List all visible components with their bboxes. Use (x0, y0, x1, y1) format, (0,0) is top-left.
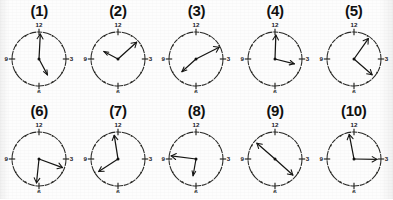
clock-tick-minor (376, 45, 378, 47)
clock-numeral-9: 9 (5, 155, 9, 162)
clock-tick-minor (52, 35, 54, 37)
clock-tick-minor (94, 72, 96, 74)
clock-tick-minor (209, 181, 211, 183)
clock-minute-hand (257, 143, 275, 159)
clock-tick-minor (130, 181, 132, 183)
clock-numeral-9: 9 (162, 155, 166, 162)
clock-tick-minor (172, 144, 174, 146)
clock-tick-minor (94, 171, 96, 173)
clock-numeral-9: 9 (5, 55, 9, 62)
clock-10-label: (10) (341, 102, 366, 120)
clock-numeral-3: 3 (227, 155, 231, 162)
clock-center-hub (38, 58, 41, 61)
clock-numeral-9: 9 (319, 55, 323, 62)
clock-8-label: (8) (188, 102, 205, 120)
clock-numeral-12: 12 (114, 21, 121, 28)
clock-tick-minor (297, 144, 299, 146)
clock-2: (2)12369 (79, 0, 158, 100)
clock-numeral-3: 3 (149, 155, 153, 162)
clock-face: 12369 (82, 119, 154, 193)
clock-tick-minor (130, 134, 132, 136)
clock-tick-minor (339, 181, 341, 183)
clock-numeral-3: 3 (385, 55, 389, 62)
clock-numeral-6: 6 (116, 188, 120, 193)
clock-tick-minor (25, 35, 27, 37)
clock-numeral-6: 6 (273, 88, 277, 93)
clock-tick-minor (261, 134, 263, 136)
clock-5-label: (5) (345, 2, 362, 20)
clock-grid: (1)12369(2)12369(3)12369(4)12369(5)12369… (0, 0, 393, 199)
clock-7-face: 12369 (82, 119, 154, 193)
clock-tick-minor (182, 35, 184, 37)
clock-tick-minor (288, 181, 290, 183)
clock-center-hub (38, 157, 41, 160)
clock-numeral-6: 6 (273, 188, 277, 193)
clock-tick-minor (339, 81, 341, 83)
clock-minute-hand (275, 35, 276, 59)
clock-4-face: 12369 (239, 19, 311, 93)
clock-5: (5)12369 (314, 0, 393, 100)
clock-tick-minor (62, 171, 64, 173)
clock-numeral-3: 3 (70, 55, 74, 62)
clock-tick-minor (219, 45, 221, 47)
clock-tick-minor (261, 35, 263, 37)
clock-3-label: (3) (188, 2, 205, 20)
clock-numeral-6: 6 (38, 188, 42, 193)
clock-face: 12369 (160, 19, 232, 93)
clock-10-face: 12369 (318, 119, 390, 193)
clock-tick-minor (62, 45, 64, 47)
clock-hour-hand (182, 59, 196, 72)
clock-tick-minor (104, 35, 106, 37)
clock-6: (6)12369 (0, 100, 79, 200)
clock-3-face: 12369 (160, 19, 232, 93)
clock-tick-minor (52, 81, 54, 83)
clock-center-hub (195, 157, 198, 160)
clock-tick-minor (52, 134, 54, 136)
clock-9: (9)12369 (236, 100, 315, 200)
clock-tick-minor (209, 134, 211, 136)
clock-numeral-12: 12 (114, 121, 121, 128)
clock-hour-hand (275, 159, 293, 175)
clock-face: 12369 (3, 119, 75, 193)
clock-tick-minor (62, 72, 64, 74)
clock-tick-minor (25, 181, 27, 183)
clock-tick-minor (104, 81, 106, 83)
clock-tick-minor (330, 45, 332, 47)
clock-tick-minor (140, 144, 142, 146)
clock-face: 12369 (82, 19, 154, 93)
clock-tick-minor (376, 144, 378, 146)
clock-tick-minor (182, 134, 184, 136)
clock-2-label: (2) (109, 2, 126, 20)
clock-1: (1)12369 (0, 0, 79, 100)
clock-face: 12369 (239, 19, 311, 93)
clock-center-hub (352, 157, 355, 160)
clock-tick-minor (366, 35, 368, 37)
clock-tick-minor (130, 81, 132, 83)
clock-tick-minor (140, 45, 142, 47)
clock-tick-minor (251, 45, 253, 47)
clock-tick-minor (15, 171, 17, 173)
clock-center-hub (274, 58, 277, 61)
clock-tick-minor (25, 81, 27, 83)
clock-7-label: (7) (109, 102, 126, 120)
clock-numeral-6: 6 (116, 88, 120, 93)
clock-1-face: 12369 (3, 19, 75, 93)
clock-numeral-6: 6 (195, 188, 199, 193)
clock-tick-minor (288, 35, 290, 37)
clock-tick-minor (104, 134, 106, 136)
clock-3: (3)12369 (157, 0, 236, 100)
clock-minute-hand (354, 39, 368, 59)
clock-numeral-9: 9 (83, 155, 87, 162)
clock-numeral-9: 9 (241, 55, 245, 62)
clock-numeral-9: 9 (162, 55, 166, 62)
clock-hour-hand (104, 51, 118, 59)
clock-tick-minor (297, 171, 299, 173)
clock-numeral-3: 3 (227, 55, 231, 62)
clock-tick-minor (94, 144, 96, 146)
clock-1-label: (1) (31, 2, 48, 20)
clock-tick-minor (15, 144, 17, 146)
clock-numeral-12: 12 (193, 21, 200, 28)
clock-tick-minor (339, 134, 341, 136)
clock-face: 12369 (3, 19, 75, 93)
clock-tick-minor (297, 72, 299, 74)
